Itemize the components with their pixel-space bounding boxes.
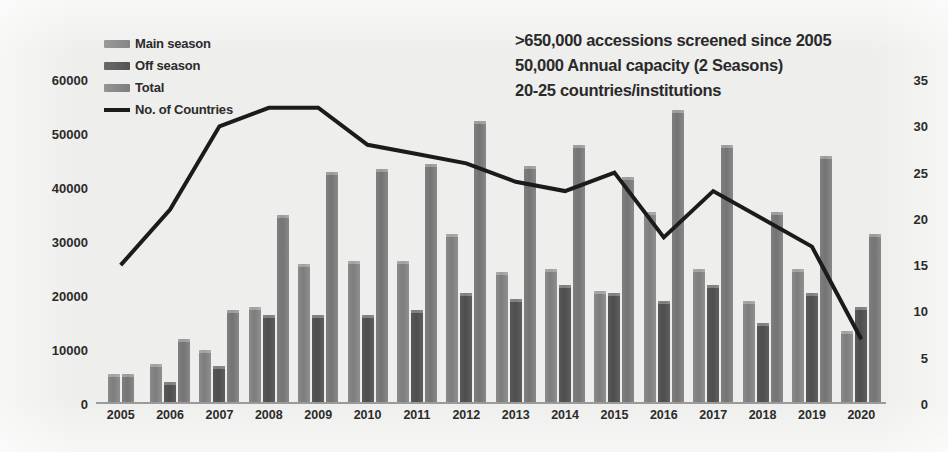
x-tick-2011: 2011 bbox=[403, 408, 430, 422]
chart-screenshot: Main season Off season Total No. of Coun… bbox=[0, 0, 948, 452]
x-tick-2020: 2020 bbox=[847, 408, 875, 422]
x-tick-2017: 2017 bbox=[699, 408, 727, 422]
x-tick-2019: 2019 bbox=[798, 408, 826, 422]
y-tick-left-10000: 10000 bbox=[18, 343, 88, 358]
y-tick-left-20000: 20000 bbox=[18, 289, 88, 304]
x-tick-2016: 2016 bbox=[650, 408, 678, 422]
legend-swatch-main-season bbox=[104, 40, 130, 48]
y-tick-right-5: 5 bbox=[894, 350, 928, 365]
y-tick-right-30: 30 bbox=[894, 119, 928, 134]
x-tick-2015: 2015 bbox=[601, 408, 629, 422]
y-tick-left-50000: 50000 bbox=[18, 127, 88, 142]
y-tick-left-40000: 40000 bbox=[18, 181, 88, 196]
legend-label-off-season: Off season bbox=[135, 58, 200, 73]
x-tick-2008: 2008 bbox=[255, 408, 283, 422]
line-path-no-of-countries bbox=[121, 108, 862, 339]
x-tick-2009: 2009 bbox=[304, 408, 332, 422]
y-tick-right-10: 10 bbox=[894, 304, 928, 319]
x-tick-2018: 2018 bbox=[749, 408, 777, 422]
legend-swatch-off-season bbox=[104, 62, 130, 70]
y-tick-right-35: 35 bbox=[894, 73, 928, 88]
line-series-no-of-countries bbox=[96, 80, 886, 404]
x-tick-2014: 2014 bbox=[551, 408, 579, 422]
legend-item-off-season: Off season bbox=[104, 55, 314, 76]
legend-label-main-season: Main season bbox=[135, 36, 211, 51]
y-axis-left: 0100002000030000400005000060000 bbox=[18, 80, 88, 404]
legend-item-main-season: Main season bbox=[104, 33, 314, 54]
x-tick-2005: 2005 bbox=[107, 408, 135, 422]
annotation-line-capacity: 50,000 Annual capacity (2 Seasons) bbox=[515, 53, 831, 78]
x-axis-labels: 2005200620072008200920102011201220132014… bbox=[96, 408, 886, 430]
x-tick-2007: 2007 bbox=[206, 408, 234, 422]
y-tick-left-30000: 30000 bbox=[18, 235, 88, 250]
y-tick-right-0: 0 bbox=[894, 397, 928, 412]
x-tick-2013: 2013 bbox=[502, 408, 530, 422]
x-tick-2010: 2010 bbox=[354, 408, 382, 422]
y-tick-right-15: 15 bbox=[894, 258, 928, 273]
y-tick-right-25: 25 bbox=[894, 165, 928, 180]
y-axis-right: 05101520253035 bbox=[894, 80, 936, 404]
x-axis-baseline bbox=[96, 402, 886, 404]
y-tick-left-60000: 60000 bbox=[18, 73, 88, 88]
plot-area: 0100002000030000400005000060000 05101520… bbox=[96, 80, 886, 404]
y-tick-right-20: 20 bbox=[894, 211, 928, 226]
annotation-line-accessions: >650,000 accessions screened since 2005 bbox=[515, 28, 831, 53]
x-tick-2012: 2012 bbox=[452, 408, 480, 422]
x-tick-2006: 2006 bbox=[156, 408, 184, 422]
y-tick-left-0: 0 bbox=[18, 397, 88, 412]
